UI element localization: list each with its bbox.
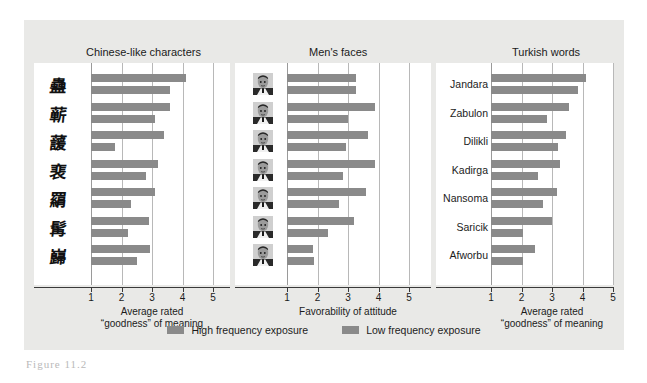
legend-label-high: High frequency exposure <box>191 324 308 336</box>
face-photo-5 <box>253 187 273 209</box>
face-photo-7 <box>253 244 273 266</box>
x-axis-caption-2: Favorability of attitude <box>258 306 438 318</box>
row-label-saricik: Saricik <box>438 221 488 233</box>
face-photo-3 <box>253 130 273 152</box>
row-label-jandara: Jandara <box>438 78 488 90</box>
x-tick-label-3: 3 <box>341 292 355 303</box>
chinese-like-glyph-5: 羂 <box>49 186 67 211</box>
chinese-like-glyph-3: 蘐 <box>49 129 67 154</box>
row-label-dilikli: Dilikli <box>438 135 488 147</box>
legend-label-low: Low frequency exposure <box>366 324 480 336</box>
x-tick-label-1: 1 <box>84 292 98 303</box>
x-axis-line-1 <box>34 287 230 288</box>
x-tick-label-1: 1 <box>484 292 498 303</box>
face-photo-2 <box>253 102 273 124</box>
x-tick-label-5: 5 <box>606 292 620 303</box>
x-tick-label-1: 1 <box>280 292 294 303</box>
x-tick-label-2: 2 <box>515 292 529 303</box>
chinese-like-glyph-1: 蠱 <box>49 72 67 97</box>
chinese-like-glyph-6: 髯 <box>49 214 67 239</box>
row-label-zabulon: Zabulon <box>438 107 488 119</box>
legend-swatch-high-icon <box>167 326 184 334</box>
figure-root: Chinese-like characters Men's faces Turk… <box>0 0 647 383</box>
row-label-afworbu: Afworbu <box>438 249 488 261</box>
x-tick-label-5: 5 <box>206 292 220 303</box>
x-axis-line-3 <box>436 287 614 288</box>
x-axis-caption-line1-1: Average rated <box>62 306 242 318</box>
x-axis-caption-line1-3: Average rated <box>462 306 642 318</box>
axes-layer: 蠱蕲蘐裵羂髯巋12345Average rated“goodness” of m… <box>24 20 624 350</box>
x-axis-caption-line1-2: Favorability of attitude <box>258 306 438 318</box>
x-tick-label-2: 2 <box>311 292 325 303</box>
x-tick-label-3: 3 <box>145 292 159 303</box>
x-tick-label-4: 4 <box>372 292 386 303</box>
x-tick-label-5: 5 <box>402 292 416 303</box>
chinese-like-glyph-7: 巋 <box>49 243 67 268</box>
legend-swatch-low-icon <box>342 326 359 334</box>
x-tick-label-4: 4 <box>576 292 590 303</box>
face-photo-4 <box>253 159 273 181</box>
face-photo-1 <box>253 73 273 95</box>
row-label-nansoma: Nansoma <box>438 192 488 204</box>
x-tick-label-4: 4 <box>176 292 190 303</box>
face-photo-6 <box>253 216 273 238</box>
row-label-kadirga: Kadirga <box>438 164 488 176</box>
chinese-like-glyph-2: 蕲 <box>49 100 67 125</box>
x-tick-label-2: 2 <box>115 292 129 303</box>
x-axis-line-2 <box>235 287 431 288</box>
legend-item-low: Low frequency exposure <box>342 324 480 336</box>
legend-item-high: High frequency exposure <box>167 324 308 336</box>
figure-caption: Figure 11.2 <box>26 358 87 370</box>
legend: High frequency exposure Low frequency ex… <box>24 324 624 336</box>
figure-panel: Chinese-like characters Men's faces Turk… <box>24 20 624 350</box>
x-tick-label-3: 3 <box>545 292 559 303</box>
chinese-like-glyph-4: 裵 <box>49 157 67 182</box>
